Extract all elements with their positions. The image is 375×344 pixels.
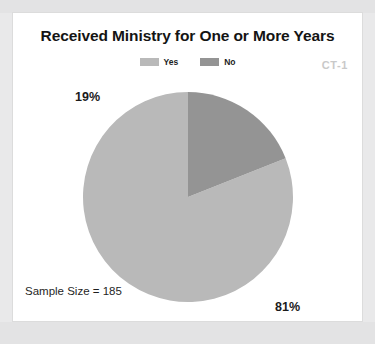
legend-label-yes: Yes xyxy=(164,57,179,67)
pie-label-no: 19% xyxy=(75,90,100,104)
corner-code-label: CT-1 xyxy=(322,59,348,71)
page-background: Received Ministry for One or More Years … xyxy=(0,0,375,344)
chart-legend: Yes No xyxy=(13,57,362,67)
sample-size-label: Sample Size = 185 xyxy=(25,285,122,297)
scan-band-bottom xyxy=(0,322,375,344)
pie-label-yes: 81% xyxy=(275,300,300,314)
legend-item-yes[interactable]: Yes xyxy=(140,57,179,67)
page-title: Received Ministry for One or More Years xyxy=(13,27,362,45)
legend-item-no[interactable]: No xyxy=(200,57,235,67)
legend-swatch-yes-icon xyxy=(140,58,159,66)
pie-slice-yes[interactable] xyxy=(83,92,293,302)
chart-card: Received Ministry for One or More Years … xyxy=(13,13,362,321)
scan-band-top xyxy=(0,0,375,13)
legend-swatch-no-icon xyxy=(200,58,219,66)
legend-label-no: No xyxy=(224,57,235,67)
pie-slice-group xyxy=(83,92,293,302)
pie-slice-no[interactable] xyxy=(188,92,286,197)
